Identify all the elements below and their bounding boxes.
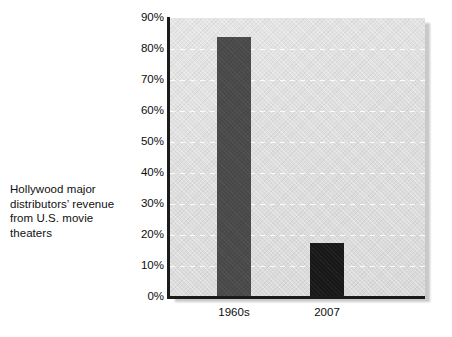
y-axis-tick-labels: 0%10%20%30%40%50%60%70%80%90% — [128, 18, 164, 297]
x-tick-label: 1960s — [218, 306, 249, 319]
gridline — [170, 142, 425, 143]
y-tick-label: 60% — [128, 105, 164, 117]
bar-chart-figure: Hollywood major distributors’ revenue fr… — [0, 0, 452, 337]
gridline — [170, 204, 425, 205]
gridline — [170, 173, 425, 174]
chart-caption: Hollywood major distributors’ revenue fr… — [10, 182, 138, 240]
y-axis-line — [167, 17, 170, 299]
y-tick-label: 70% — [128, 74, 164, 86]
gridline — [170, 266, 425, 267]
y-tick-label: 80% — [128, 43, 164, 55]
y-tick-label: 10% — [128, 260, 164, 272]
y-tick-label: 20% — [128, 229, 164, 241]
x-axis-line — [167, 296, 425, 299]
y-tick-label: 90% — [128, 12, 164, 24]
y-tick-label: 30% — [128, 198, 164, 210]
x-axis-tick-labels: 1960s2007 — [170, 306, 425, 326]
x-tick-label: 2007 — [314, 306, 340, 319]
y-tick-label: 50% — [128, 136, 164, 148]
plot-texture-overlay — [170, 18, 425, 297]
bar-2007 — [310, 243, 344, 297]
bar-texture — [310, 243, 344, 297]
gridline — [170, 80, 425, 81]
bar-texture — [217, 37, 251, 297]
gridline — [170, 49, 425, 50]
bar-1960s — [217, 37, 251, 297]
plot-area — [170, 18, 425, 297]
gridline — [170, 235, 425, 236]
gridline — [170, 111, 425, 112]
y-tick-label: 0% — [128, 291, 164, 303]
y-tick-label: 40% — [128, 167, 164, 179]
